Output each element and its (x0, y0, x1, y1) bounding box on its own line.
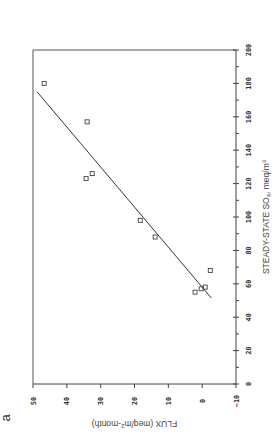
flux-axis: −1001020304050 (30, 384, 241, 407)
so4-tick-label: 100 (245, 211, 253, 224)
so4-axis: 020406080100120140160180200 (233, 44, 253, 386)
data-point (42, 81, 46, 85)
axis-titles: STEADY-STATE SO4, meq/m3FLUX (meq/m2-mon… (0, 159, 272, 429)
panel-label: a (0, 414, 13, 422)
so4-tick-label: 20 (245, 346, 253, 354)
data-point (90, 172, 94, 176)
flux-tick-label: 40 (63, 397, 71, 405)
so4-tick-label: 120 (245, 177, 253, 190)
so4-tick-label: 180 (245, 77, 253, 90)
flux-tick-label: 50 (30, 397, 38, 405)
data-point (193, 290, 197, 294)
so4-tick-label: 80 (245, 246, 253, 254)
so4-tick-label: 40 (245, 313, 253, 321)
flux-tick-label: 10 (165, 397, 173, 405)
chart: 020406080100120140160180200 −10010203040… (0, 0, 278, 440)
so4-tick-label: 0 (245, 382, 253, 386)
data-points (42, 81, 212, 294)
data-point (208, 268, 212, 272)
so4-tick-label: 160 (245, 110, 253, 123)
plot-frame (33, 50, 236, 384)
flux-tick-label: 20 (131, 397, 139, 405)
data-point (138, 218, 142, 222)
so4-axis-title: STEADY-STATE SO4, meq/m3 (261, 159, 272, 274)
data-point (85, 120, 89, 124)
so4-tick-label: 60 (245, 280, 253, 288)
regression-line (37, 92, 211, 298)
so4-tick-label: 140 (245, 144, 253, 157)
data-point (153, 235, 157, 239)
flux-tick-label: 30 (97, 397, 105, 405)
data-point (84, 177, 88, 181)
flux-tick-label: 0 (199, 399, 207, 403)
so4-tick-label: 200 (245, 44, 253, 57)
fit-line (37, 92, 211, 298)
flux-tick-label: −10 (233, 395, 241, 408)
flux-axis-title: FLUX (meq/m2-month) (92, 419, 178, 429)
